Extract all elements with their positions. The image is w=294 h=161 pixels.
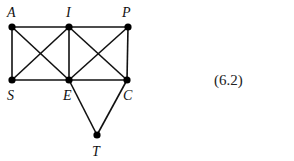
node-label-E: E: [62, 88, 72, 103]
node-E: [65, 76, 72, 83]
node-C: [123, 76, 130, 83]
node-P: [124, 23, 131, 30]
node-label-I: I: [65, 5, 72, 20]
edge-E-T: [69, 80, 97, 135]
edge-P-C: [127, 27, 128, 80]
graph-diagram: AIPSECT: [0, 0, 294, 161]
node-label-P: P: [121, 5, 131, 20]
node-label-S: S: [7, 88, 14, 103]
node-S: [8, 76, 15, 83]
equation-number: (6.2): [214, 72, 243, 89]
node-A: [8, 23, 15, 30]
node-label-A: A: [6, 5, 16, 20]
node-label-C: C: [123, 88, 133, 103]
node-label-T: T: [92, 144, 101, 159]
node-T: [93, 131, 100, 138]
node-I: [65, 23, 72, 30]
